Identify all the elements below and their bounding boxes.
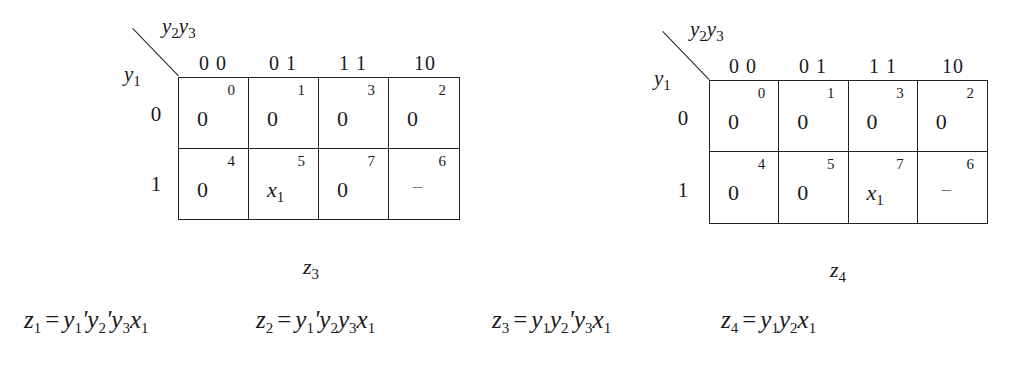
column-header: 0 0 [178, 52, 248, 75]
column-variables: y2y3 [162, 14, 196, 42]
kmap-cell-5: x15 [249, 149, 319, 220]
cell-value: 0 [867, 109, 878, 135]
dont-care: – [942, 179, 951, 200]
minterm-index: 6 [967, 156, 975, 173]
minterm-index: 2 [439, 82, 447, 99]
column-header: 10 [390, 52, 460, 75]
column-header: 10 [918, 55, 988, 78]
cell-value: 0 [728, 180, 739, 206]
column-header: 1 1 [318, 52, 388, 75]
minterm-index: 3 [896, 85, 904, 102]
cell-value: x1 [867, 180, 884, 209]
cell-value: 0 [407, 106, 418, 132]
kmap-label: z3 [303, 254, 319, 283]
column-header: 0 1 [778, 55, 848, 78]
kmap-cell-4: 04 [710, 152, 779, 223]
minterm-index: 5 [827, 156, 835, 173]
column-header: 0 1 [248, 52, 318, 75]
kmap-cell-7: 07 [319, 149, 389, 220]
minterm-index: 1 [298, 82, 306, 99]
kmap-cell-7: x17 [849, 152, 918, 223]
cell-value: x1 [267, 177, 284, 206]
kmap-cell-4: 04 [179, 149, 249, 220]
kmap-cell-3: 03 [849, 81, 918, 152]
cell-value: 0 [197, 177, 208, 203]
minterm-index: 7 [368, 153, 376, 170]
column-header: 0 0 [708, 55, 778, 78]
kmap-cell-3: 03 [319, 78, 389, 149]
column-variables: y2y3 [690, 17, 724, 45]
column-header: 1 1 [848, 55, 918, 78]
cell-value: 0 [197, 106, 208, 132]
kmap-cell-1: 01 [249, 78, 319, 149]
minterm-index: 6 [439, 153, 447, 170]
equation-z2: z2=y1'y2y3x1 [256, 306, 375, 337]
row-variable: y1 [124, 62, 141, 90]
kmap-cell-6: –6 [918, 152, 987, 223]
cell-value: 0 [797, 180, 808, 206]
cell-value: 0 [936, 109, 947, 135]
minterm-index: 1 [827, 85, 835, 102]
row-header: 1 [146, 172, 166, 197]
kmap-cell-0: 00 [710, 81, 779, 152]
cell-value: 0 [337, 106, 348, 132]
minterm-index: 3 [368, 82, 376, 99]
minterm-index: 7 [896, 156, 904, 173]
kmap-cell-1: 01 [779, 81, 848, 152]
equation-z1: z1=y1'y2'y3x1 [24, 306, 149, 337]
equation-z4: z4=y1y2x1 [721, 306, 816, 337]
cell-value: 0 [728, 109, 739, 135]
kmap-cell-5: 05 [779, 152, 848, 223]
row-variable: y1 [654, 66, 671, 94]
kmap-cell-0: 00 [179, 78, 249, 149]
row-header: 1 [673, 178, 693, 203]
kmap-grid: 00 01 03 02 04 05 x17 –6 [709, 80, 988, 224]
kmap-label: z4 [830, 257, 846, 286]
cell-value: 0 [797, 109, 808, 135]
minterm-index: 0 [758, 85, 766, 102]
dont-care: – [413, 176, 422, 197]
row-header: 0 [673, 106, 693, 131]
kmap-cell-6: –6 [389, 149, 459, 220]
row-header: 0 [146, 102, 166, 127]
cell-value: 0 [267, 106, 278, 132]
minterm-index: 4 [758, 156, 766, 173]
minterm-index: 4 [228, 153, 236, 170]
kmap-cell-2: 02 [389, 78, 459, 149]
minterm-index: 0 [228, 82, 236, 99]
kmap-cell-2: 02 [918, 81, 987, 152]
kmap-grid: 00 01 03 02 04 x15 07 –6 [178, 77, 460, 220]
cell-value: 0 [337, 177, 348, 203]
equation-z3: z3=y1y2'y3x1 [492, 306, 611, 337]
minterm-index: 2 [967, 85, 975, 102]
minterm-index: 5 [298, 153, 306, 170]
